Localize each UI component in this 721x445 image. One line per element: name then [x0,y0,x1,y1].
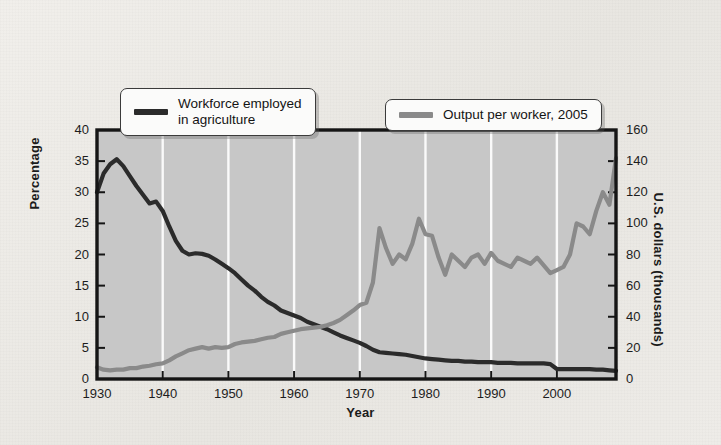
chart-figure: Percentage U.S. dollars (thousands) Year… [0,0,721,445]
y-tick-right: 40 [626,309,662,324]
legend-swatch-workforce [134,109,168,115]
x-tick: 1970 [337,386,383,401]
x-tick: 1990 [468,386,514,401]
legend-swatch-output [399,112,433,118]
y-tick-left: 40 [55,122,89,137]
legend-label-workforce: Workforce employedin agriculture [178,96,302,128]
x-tick: 2000 [534,386,580,401]
y-axis-left-title: Percentage [27,190,42,210]
x-tick: 1940 [140,386,186,401]
y-tick-right: 140 [626,153,662,168]
y-tick-left: 25 [55,215,89,230]
y-tick-right: 0 [626,371,662,386]
legend-label-workforce-line1: Workforce employed [178,96,302,111]
legend-label-output: Output per worker, 2005 [443,107,588,123]
x-tick: 1930 [74,386,120,401]
legend-label-workforce-line2: in agriculture [178,112,255,127]
x-tick: 1950 [205,386,251,401]
x-tick: 1960 [271,386,317,401]
y-tick-left: 0 [55,371,89,386]
y-tick-left: 35 [55,153,89,168]
chart-plot-area [0,0,721,445]
y-tick-right: 60 [626,278,662,293]
y-tick-right: 20 [626,340,662,355]
y-tick-right: 120 [626,184,662,199]
y-tick-right: 160 [626,122,662,137]
legend-item-workforce[interactable]: Workforce employedin agriculture [120,88,316,136]
y-tick-left: 5 [55,340,89,355]
y-tick-left: 15 [55,278,89,293]
x-axis-title: Year [0,405,721,420]
y-tick-right: 80 [626,247,662,262]
legend-item-output[interactable]: Output per worker, 2005 [385,99,602,131]
y-tick-left: 30 [55,184,89,199]
y-tick-left: 20 [55,247,89,262]
y-tick-right: 100 [626,215,662,230]
y-tick-left: 10 [55,309,89,324]
x-tick: 1980 [402,386,448,401]
